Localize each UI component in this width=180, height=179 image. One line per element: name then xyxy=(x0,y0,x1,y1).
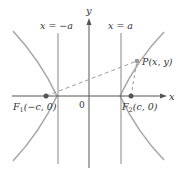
right-directrix-label: x = a xyxy=(108,20,133,31)
left-directrix-label: x = −a xyxy=(40,20,73,31)
focus-1-point xyxy=(44,94,49,99)
point-p-label: P(x, y) xyxy=(141,56,173,67)
y-axis-label: y xyxy=(85,5,92,16)
x-axis-arrow-icon xyxy=(160,94,167,99)
focus-1-label: F1(−c, 0) xyxy=(12,101,57,114)
focus-2-label: F2(c, 0) xyxy=(121,101,158,114)
origin-label: 0 xyxy=(79,100,85,110)
point-p xyxy=(135,59,140,64)
focus-2-point xyxy=(129,94,134,99)
hyperbola-diagram: y x 0 x = −a x = a P(x, y) F1(−c, 0) F2(… xyxy=(0,0,180,179)
y-axis-arrow-icon xyxy=(87,18,92,25)
dashed-f2-to-p xyxy=(131,61,137,96)
x-axis-label: x xyxy=(169,91,175,102)
